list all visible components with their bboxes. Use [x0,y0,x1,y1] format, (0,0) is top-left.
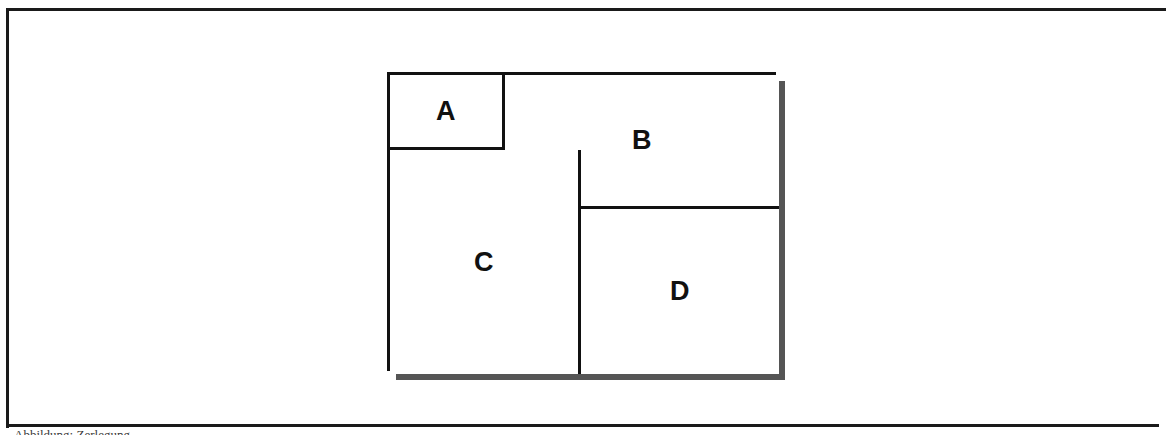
figure-caption-text: Abbildung: Zerlegung [14,428,774,435]
region-d: D [581,209,779,374]
region-c: C [390,150,581,374]
region-b-label: B [632,127,652,154]
region-a: A [390,75,505,150]
region-c-label: C [474,249,494,276]
region-d-label: D [670,278,690,305]
page-frame-bottom-rule [6,424,1159,427]
figure-caption-clipped: Abbildung: Zerlegung [14,428,774,435]
rectangle-dissection-diagram: A B C D [387,72,776,371]
region-a-label: A [436,98,456,125]
diagram-outer-rectangle: A B C D [387,72,776,371]
